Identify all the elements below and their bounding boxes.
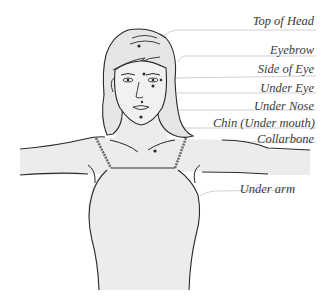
leader-top-of-head bbox=[163, 30, 316, 36]
pupil-left bbox=[127, 79, 130, 82]
label-side-of-eye: Side of Eye bbox=[258, 62, 314, 76]
eyebrow-point bbox=[143, 73, 146, 76]
label-eyebrow: Eyebrow bbox=[270, 43, 314, 57]
label-under-nose: Under Nose bbox=[254, 99, 314, 113]
label-top-of-head: Top of Head bbox=[253, 14, 314, 28]
leader-side-of-eye bbox=[174, 76, 316, 78]
side-of-eye-point bbox=[160, 79, 163, 82]
torso-shape bbox=[88, 168, 200, 290]
label-under-arm: Under arm bbox=[240, 182, 295, 196]
label-under-eye: Under Eye bbox=[260, 81, 314, 95]
pupil-right bbox=[152, 79, 155, 82]
top-of-head-point bbox=[137, 44, 140, 47]
under-nose-point bbox=[141, 101, 143, 103]
label-chin: Chin (Under mouth) bbox=[213, 116, 315, 130]
label-collarbone: Collarbone bbox=[257, 132, 314, 146]
under-eye-point bbox=[152, 85, 155, 88]
chin-point bbox=[139, 115, 142, 118]
collarbone-point bbox=[153, 149, 156, 152]
